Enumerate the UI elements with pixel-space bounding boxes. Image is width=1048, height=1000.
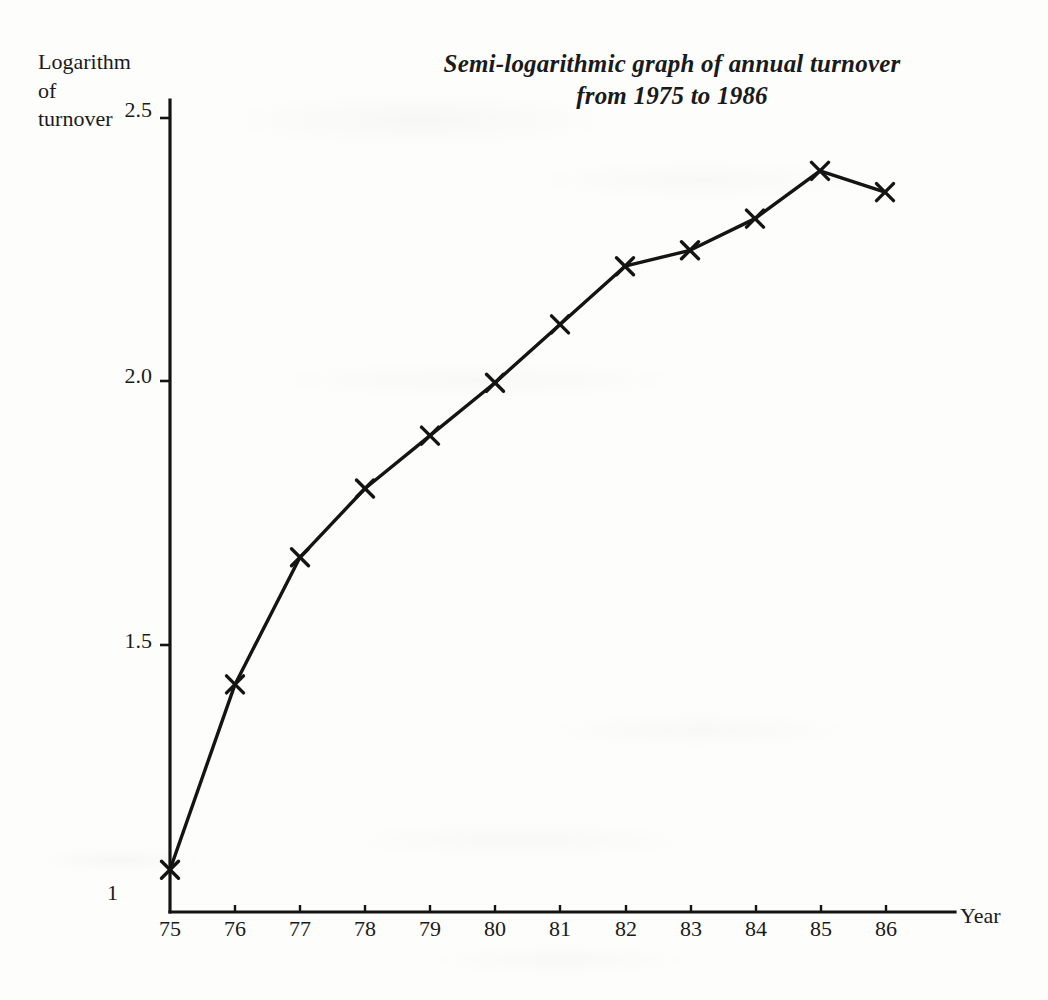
data-point-79 <box>420 426 440 446</box>
data-point-80 <box>485 373 505 393</box>
data-point-86 <box>875 182 895 202</box>
data-point-82 <box>615 256 635 276</box>
axes-group <box>170 100 955 912</box>
series-markers <box>160 161 895 880</box>
data-point-84 <box>745 209 765 229</box>
data-point-83 <box>680 240 700 260</box>
data-point-85 <box>810 161 830 181</box>
chart-page: Semi-logarithmic graph of annual turnove… <box>0 0 1048 1000</box>
data-point-77 <box>290 547 310 567</box>
data-point-81 <box>550 314 570 334</box>
data-point-76 <box>225 674 245 694</box>
plot-area <box>0 0 1048 1000</box>
series-line-turnover <box>170 171 885 870</box>
data-point-75 <box>160 860 180 880</box>
data-point-78 <box>355 479 375 499</box>
